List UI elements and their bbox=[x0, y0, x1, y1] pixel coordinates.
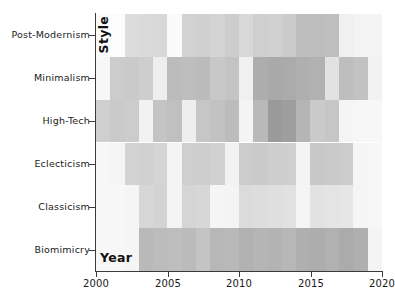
heatmap-row bbox=[96, 143, 382, 186]
heatmap-cell bbox=[182, 185, 196, 228]
y-axis-tick-label: High-Tech bbox=[43, 115, 90, 126]
heatmap-cell bbox=[110, 185, 124, 228]
heatmap-cell bbox=[296, 100, 310, 143]
heatmap-cell bbox=[296, 57, 310, 100]
heatmap-cell bbox=[139, 185, 153, 228]
heatmap-cell bbox=[225, 57, 239, 100]
heatmap-cell bbox=[139, 143, 153, 186]
heatmap-cell bbox=[253, 143, 267, 186]
heatmap-cell bbox=[282, 143, 296, 186]
heatmap-cell bbox=[268, 14, 282, 57]
heatmap-row bbox=[96, 228, 382, 271]
y-axis-tick-label: Classicism bbox=[38, 201, 90, 212]
heatmap-cell bbox=[325, 14, 339, 57]
heatmap-cell bbox=[210, 14, 224, 57]
heatmap-cell bbox=[268, 100, 282, 143]
heatmap-cell bbox=[310, 143, 324, 186]
heatmap-cell bbox=[167, 100, 181, 143]
heatmap-cell bbox=[210, 185, 224, 228]
heatmap-cell bbox=[339, 57, 353, 100]
heatmap-cell bbox=[353, 100, 367, 143]
heatmap-cell bbox=[196, 143, 210, 186]
heatmap-cell bbox=[339, 100, 353, 143]
x-axis-tick-label: 2020 bbox=[369, 278, 395, 289]
heatmap-cell bbox=[139, 228, 153, 271]
heatmap-cell bbox=[268, 185, 282, 228]
heatmap-cell bbox=[196, 100, 210, 143]
heatmap-cell bbox=[239, 14, 253, 57]
heatmap-cell bbox=[225, 14, 239, 57]
heatmap-cell bbox=[225, 228, 239, 271]
heatmap-row bbox=[96, 14, 382, 57]
heatmap-cell bbox=[253, 57, 267, 100]
heatmap-cell bbox=[167, 185, 181, 228]
heatmap-cell bbox=[239, 57, 253, 100]
heatmap-cell bbox=[125, 100, 139, 143]
x-axis-tick-label: 2010 bbox=[226, 278, 252, 289]
heatmap-cell bbox=[167, 14, 181, 57]
heatmap-cell bbox=[253, 185, 267, 228]
heatmap-cell bbox=[282, 100, 296, 143]
x-axis-tick bbox=[239, 271, 240, 277]
heatmap-cell bbox=[353, 185, 367, 228]
heatmap-cell bbox=[153, 228, 167, 271]
heatmap-cell bbox=[139, 57, 153, 100]
heatmap-cell bbox=[96, 100, 110, 143]
heatmap-cell bbox=[253, 228, 267, 271]
heatmap-row bbox=[96, 57, 382, 100]
heatmap-cell bbox=[167, 57, 181, 100]
heatmap-cell bbox=[339, 185, 353, 228]
heatmap-cell bbox=[125, 14, 139, 57]
heatmap-cell bbox=[196, 14, 210, 57]
heatmap-cell bbox=[196, 228, 210, 271]
heatmap-cell bbox=[96, 57, 110, 100]
heatmap-cell bbox=[310, 100, 324, 143]
heatmap-cell bbox=[153, 143, 167, 186]
heatmap-cell bbox=[210, 57, 224, 100]
heatmap-cell bbox=[282, 185, 296, 228]
heatmap-cell bbox=[110, 100, 124, 143]
x-axis-title: Year bbox=[100, 252, 132, 265]
heatmap-cell bbox=[225, 143, 239, 186]
heatmap-cell bbox=[196, 57, 210, 100]
x-axis-tick-label: 2015 bbox=[298, 278, 324, 289]
heatmap-cell bbox=[182, 14, 196, 57]
x-axis-tick bbox=[96, 271, 97, 277]
heatmap-cell bbox=[125, 185, 139, 228]
heatmap-cell bbox=[239, 228, 253, 271]
y-axis-tick-label: Eclecticism bbox=[34, 158, 90, 169]
heatmap-cell bbox=[153, 57, 167, 100]
x-axis-tick-label: 2000 bbox=[83, 278, 109, 289]
heatmap-row bbox=[96, 100, 382, 143]
x-axis-tick-label: 2005 bbox=[155, 278, 181, 289]
heatmap-cell bbox=[368, 185, 382, 228]
heatmap-cell bbox=[110, 143, 124, 186]
heatmap-cell bbox=[196, 185, 210, 228]
heatmap-cell bbox=[368, 100, 382, 143]
x-axis-tick bbox=[311, 271, 312, 277]
heatmap-cell bbox=[182, 100, 196, 143]
heatmap-cell bbox=[368, 14, 382, 57]
y-axis-title: Style bbox=[98, 16, 111, 53]
heatmap-cell bbox=[125, 143, 139, 186]
heatmap-cell bbox=[225, 100, 239, 143]
heatmap-cell bbox=[310, 57, 324, 100]
heatmap-cell bbox=[353, 228, 367, 271]
heatmap-cell bbox=[167, 228, 181, 271]
heatmap-row bbox=[96, 185, 382, 228]
heatmap-cell bbox=[268, 143, 282, 186]
heatmap-cell bbox=[153, 100, 167, 143]
heatmap-cell bbox=[139, 100, 153, 143]
heatmap-cell bbox=[310, 228, 324, 271]
y-axis-tick-label: Minimalism bbox=[34, 72, 90, 83]
heatmap-cell bbox=[268, 57, 282, 100]
heatmap-cell bbox=[268, 228, 282, 271]
heatmap-cell bbox=[253, 14, 267, 57]
heatmap-cell bbox=[325, 100, 339, 143]
heatmap-cell bbox=[296, 185, 310, 228]
heatmap-cell bbox=[210, 228, 224, 271]
heatmap-cell bbox=[310, 14, 324, 57]
heatmap-cell bbox=[182, 228, 196, 271]
y-axis-tick-label: Biomimicry bbox=[34, 244, 90, 255]
heatmap-cell bbox=[239, 143, 253, 186]
